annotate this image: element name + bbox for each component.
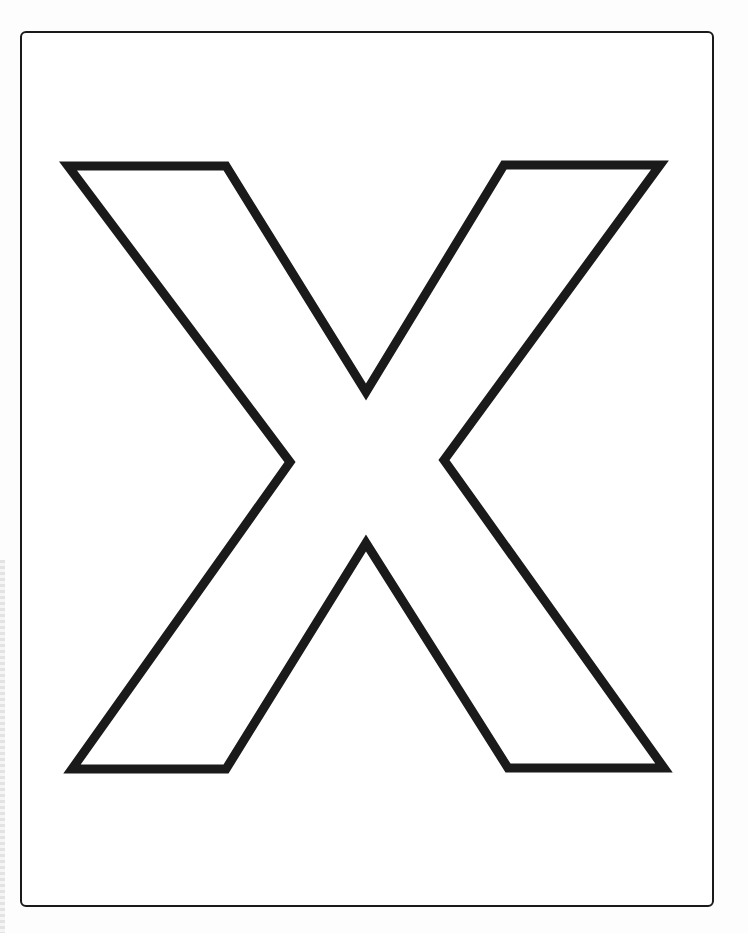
letter-x-outline <box>0 0 748 933</box>
letter-x-shape <box>68 165 664 769</box>
